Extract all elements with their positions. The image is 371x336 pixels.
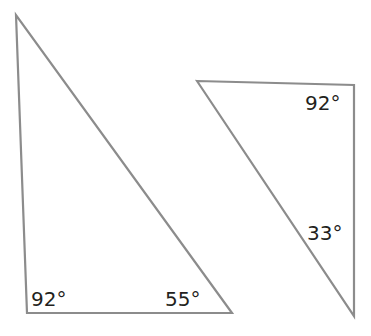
triangle-right (197, 81, 354, 316)
diagram-canvas: 92° 55° 92° 33° (0, 0, 371, 336)
triangle-left (16, 15, 232, 313)
angle-label-left-bottom-right: 55° (165, 287, 200, 311)
angle-label-left-bottom-left: 92° (31, 287, 66, 311)
angle-label-right-top: 92° (305, 91, 340, 115)
angle-label-right-middle: 33° (307, 221, 342, 245)
